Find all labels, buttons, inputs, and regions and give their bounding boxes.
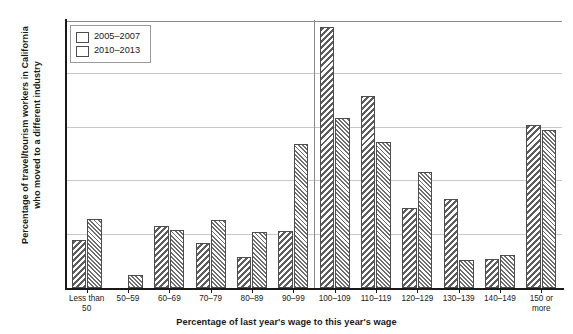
- x-axis-tick-label: 100–109: [314, 294, 355, 304]
- bar: [376, 142, 391, 288]
- legend-label-series-1: 2010–2013: [94, 46, 140, 55]
- x-axis-tick-label: 110–119: [355, 294, 396, 304]
- bar: [252, 232, 267, 288]
- bar-group: [397, 21, 438, 288]
- bar: [154, 226, 169, 288]
- bar-chart: Percentage of travel/tourism workers in …: [0, 0, 573, 334]
- bar: [500, 255, 515, 288]
- legend-item: 2005–2007: [76, 30, 140, 44]
- bar: [361, 96, 376, 288]
- bar: [170, 230, 185, 288]
- bar-group: [521, 21, 562, 288]
- legend: 2005–2007 2010–2013: [70, 25, 151, 63]
- x-axis-tick-label: 140–149: [479, 294, 520, 304]
- bar: [485, 259, 500, 288]
- bar-group: [438, 21, 479, 288]
- x-axis-tick-label: 120–129: [397, 294, 438, 304]
- y-axis-title-line1: Percentage of travel/tourism workers in …: [20, 26, 32, 244]
- bar-group: [479, 21, 520, 288]
- legend-swatch-series-1: [76, 46, 89, 57]
- bar: [128, 275, 143, 288]
- x-axis-tick-label: 50–59: [107, 294, 148, 304]
- x-axis-line: [65, 288, 564, 290]
- bar-group: [190, 21, 231, 288]
- bar: [294, 144, 309, 288]
- bar: [459, 260, 474, 288]
- bar: [87, 219, 102, 288]
- bar: [278, 231, 293, 288]
- bar: [444, 199, 459, 288]
- bar: [211, 220, 226, 288]
- x-axis-title: Percentage of last year's wage to this y…: [0, 317, 573, 327]
- x-axis-tick-label: 150 ormore: [521, 294, 562, 314]
- x-axis-tick-label: 90–99: [273, 294, 314, 304]
- x-axis-tick-label: 60–69: [149, 294, 190, 304]
- wage-parity-divider: [314, 20, 315, 288]
- bar: [237, 257, 252, 288]
- bar: [72, 240, 87, 288]
- bar-group: [314, 21, 355, 288]
- x-axis-tick-label: Less than50: [66, 294, 107, 314]
- x-axis-tick-label: 130–139: [438, 294, 479, 304]
- bar: [320, 27, 335, 288]
- bar-group: [149, 21, 190, 288]
- bar: [526, 125, 541, 288]
- bar-group: [273, 21, 314, 288]
- y-axis-title: Percentage of travel/tourism workers in …: [15, 0, 49, 271]
- legend-label-series-0: 2005–2007: [94, 32, 140, 41]
- bar-group: [355, 21, 396, 288]
- bar: [542, 130, 557, 288]
- y-axis-title-line2: who moved to a different industry: [32, 61, 44, 209]
- legend-swatch-series-0: [76, 32, 89, 43]
- y-axis-line: [65, 19, 67, 290]
- x-axis-tick-label: 70–79: [190, 294, 231, 304]
- bar-group: [231, 21, 272, 288]
- x-axis-tick-label: 80–89: [231, 294, 272, 304]
- legend-item: 2010–2013: [76, 44, 140, 58]
- bar: [335, 118, 350, 288]
- bar: [402, 208, 417, 288]
- bar: [418, 172, 433, 288]
- bar: [196, 243, 211, 288]
